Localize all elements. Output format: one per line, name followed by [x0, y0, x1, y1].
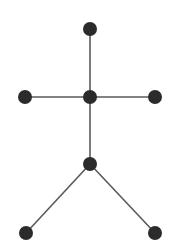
node-top — [83, 22, 97, 36]
node-left — [18, 90, 32, 104]
edge-layer — [25, 29, 155, 233]
node-bottom-left — [19, 226, 33, 240]
graph-diagram — [0, 0, 171, 252]
node-center — [83, 90, 97, 104]
node-right — [148, 90, 162, 104]
edge-hip-bottom-left — [26, 164, 90, 233]
node-bottom-right — [148, 226, 162, 240]
node-hip — [83, 157, 97, 171]
edge-hip-bottom-right — [90, 164, 155, 233]
